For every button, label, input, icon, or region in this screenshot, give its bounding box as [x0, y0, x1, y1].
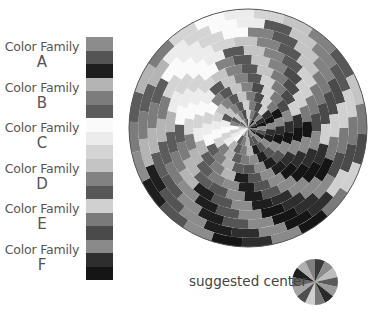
suggested-center-label: suggested center: [189, 273, 307, 289]
spiral-cells: [129, 9, 367, 247]
